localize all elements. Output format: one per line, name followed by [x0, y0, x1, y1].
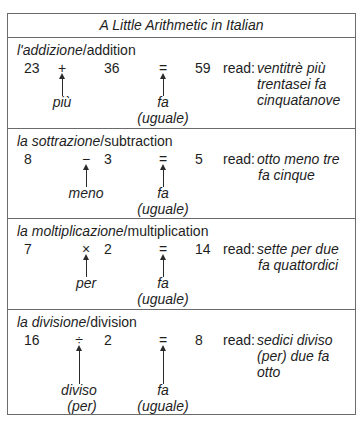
reading-line: fa cinque	[257, 167, 340, 183]
read-label: read:	[223, 332, 255, 348]
reading-line: sette per due	[257, 241, 339, 257]
reading-line: ventitrè più	[257, 60, 340, 76]
operand-2: 3	[104, 151, 112, 167]
section-heading: l'addizione/addition	[17, 42, 136, 58]
reading-line: otto meno tre	[257, 151, 340, 167]
section-heading: la moltiplicazione/multiplication	[17, 223, 208, 239]
reading-line: trentasei fa	[257, 76, 340, 92]
operand-2: 2	[104, 332, 112, 348]
equals-word: fa (uguale)	[133, 185, 193, 217]
reading-text: sedici diviso (per) due fa otto	[257, 332, 332, 380]
equals-word-line: fa	[133, 382, 193, 398]
result: 8	[195, 332, 203, 348]
equals-word-line: (uguale)	[133, 291, 193, 307]
operator-word: diviso (per)	[54, 382, 104, 414]
operand-1: 8	[24, 151, 32, 167]
italian-term: la sottrazione	[17, 133, 100, 149]
english-term: addition	[87, 42, 136, 58]
english-term: multiplication	[128, 223, 209, 239]
operator-word-line: per	[66, 275, 106, 291]
arithmetic-table: A Little Arithmetic in Italian l'addizio…	[7, 13, 356, 415]
reading-line: sedici diviso	[257, 332, 332, 348]
operator-word-line: più	[42, 94, 82, 110]
section-heading: la divisione/division	[17, 314, 137, 330]
operator-word: meno	[66, 185, 106, 201]
read-label: read:	[223, 151, 255, 167]
read-label: read:	[223, 241, 255, 257]
operand-2: 36	[104, 60, 120, 76]
section-addition: l'addizione/addition 23 + 36 = 59 read: …	[8, 38, 355, 129]
english-term: subtraction	[104, 133, 172, 149]
result: 59	[195, 60, 211, 76]
equals-word: fa (uguale)	[133, 275, 193, 307]
equals-word: fa (uguale)	[133, 94, 193, 126]
equals-word-line: (uguale)	[133, 398, 193, 414]
equals-word-line: fa	[133, 275, 193, 291]
reading-line: (per) due fa	[257, 348, 332, 364]
operand-1: 23	[24, 60, 40, 76]
reading-text: ventitrè più trentasei fa cinquatanove	[257, 60, 340, 108]
operator-word-line: (per)	[54, 398, 104, 414]
section-multiplication: la moltiplicazione/multiplication 7 × 2 …	[8, 219, 355, 310]
english-term: division	[90, 314, 137, 330]
operator-word: per	[66, 275, 106, 291]
equals-word-line: (uguale)	[133, 201, 193, 217]
operator-word-line: diviso	[54, 382, 104, 398]
operand-1: 16	[24, 332, 40, 348]
operator-word: più	[42, 94, 82, 110]
result: 14	[195, 241, 211, 257]
equals-word-line: (uguale)	[133, 110, 193, 126]
operand-2: 2	[104, 241, 112, 257]
arrow-up-icon	[79, 350, 80, 384]
section-heading: la sottrazione/subtraction	[17, 133, 173, 149]
equals-word: fa (uguale)	[133, 382, 193, 414]
reading-line: fa quattordici	[257, 257, 339, 273]
read-label: read:	[223, 60, 255, 76]
arrow-up-icon	[163, 350, 164, 384]
result: 5	[195, 151, 203, 167]
operand-1: 7	[24, 241, 32, 257]
italian-term: l'addizione	[17, 42, 83, 58]
operator-word-line: meno	[66, 185, 106, 201]
equals-word-line: fa	[133, 94, 193, 110]
reading-text: sette per due fa quattordici	[257, 241, 339, 273]
reading-line: cinquatanove	[257, 92, 340, 108]
reading-text: otto meno tre fa cinque	[257, 151, 340, 183]
section-division: la divisione/division 16 ÷ 2 = 8 read: s…	[8, 310, 355, 414]
italian-term: la moltiplicazione	[17, 223, 124, 239]
equals-word-line: fa	[133, 185, 193, 201]
table-title: A Little Arithmetic in Italian	[8, 14, 355, 38]
section-subtraction: la sottrazione/subtraction 8 − 3 = 5 rea…	[8, 129, 355, 219]
reading-line: otto	[257, 364, 332, 380]
italian-term: la divisione	[17, 314, 86, 330]
